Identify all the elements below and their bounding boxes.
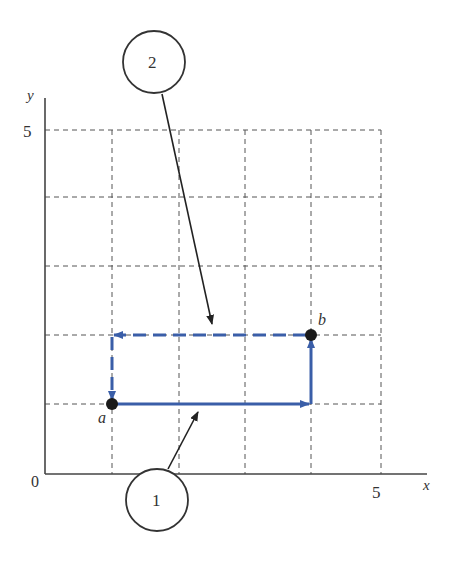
point-a-label: a bbox=[98, 409, 106, 426]
point-b-label: b bbox=[318, 311, 326, 328]
origin-label: 0 bbox=[31, 473, 39, 490]
x-axis-label: x bbox=[422, 477, 430, 493]
callout-1-label: 1 bbox=[152, 491, 161, 510]
x-tick-label: 5 bbox=[372, 483, 381, 502]
grid bbox=[45, 130, 381, 474]
path-diagram: y 5 0 5 x a b 2 1 bbox=[0, 0, 458, 572]
point-a bbox=[106, 398, 118, 410]
path-1 bbox=[112, 339, 311, 404]
callout-2-pointer bbox=[162, 94, 212, 324]
callout-2: 2 bbox=[123, 31, 212, 324]
point-b bbox=[305, 329, 317, 341]
path-2 bbox=[112, 335, 306, 400]
callout-1: 1 bbox=[126, 412, 198, 531]
y-axis-label: y bbox=[25, 87, 34, 103]
callout-2-label: 2 bbox=[148, 53, 157, 72]
callout-1-pointer bbox=[168, 412, 198, 469]
y-tick-label: 5 bbox=[23, 122, 32, 141]
